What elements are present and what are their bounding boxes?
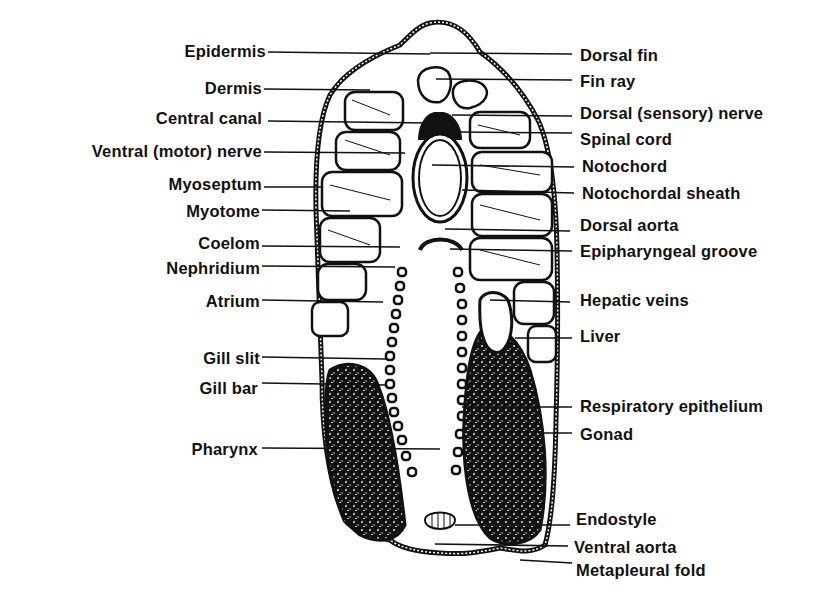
label-dorsal-fin: Dorsal fin (580, 46, 658, 64)
liver (480, 293, 512, 353)
label-spinal-cord: Spinal cord (580, 130, 672, 148)
amphioxus-cross-section (0, 0, 828, 599)
label-ventral-motor-nerve: Ventral (motor) nerve (92, 142, 262, 160)
label-notochordal-sheath: Notochordal sheath (582, 184, 741, 202)
label-coelom: Coelom (198, 234, 260, 252)
label-notochord: Notochord (582, 157, 667, 175)
label-respiratory-epithelium: Respiratory epithelium (580, 397, 763, 415)
fin-ray-left (418, 67, 451, 102)
label-gonad: Gonad (580, 425, 633, 443)
label-ventral-aorta: Ventral aorta (574, 538, 677, 556)
label-dorsal-sensory-nerve: Dorsal (sensory) nerve (580, 104, 763, 122)
label-nephridium: Nephridium (166, 259, 260, 277)
label-metapleural-fold: Metapleural fold (576, 561, 706, 579)
label-epipharyngeal-groove: Epipharyngeal groove (580, 242, 757, 260)
label-gill-slit: Gill slit (203, 349, 260, 367)
label-gill-bar: Gill bar (200, 379, 258, 397)
fin-ray-right (453, 81, 487, 109)
label-pharynx: Pharynx (191, 440, 258, 458)
label-atrium: Atrium (206, 292, 260, 310)
myotomes-left (312, 92, 403, 336)
label-central-canal: Central canal (156, 109, 262, 127)
label-myotome: Myotome (186, 202, 260, 220)
label-fin-ray: Fin ray (580, 72, 636, 90)
label-epidermis: Epidermis (184, 42, 266, 60)
label-myoseptum: Myoseptum (169, 175, 262, 193)
notochord (419, 140, 461, 216)
label-liver: Liver (580, 327, 620, 345)
label-dermis: Dermis (205, 79, 262, 97)
label-dorsal-aorta: Dorsal aorta (580, 216, 679, 234)
label-hepatic-veins: Hepatic veins (580, 291, 689, 309)
label-endostyle: Endostyle (576, 510, 657, 528)
